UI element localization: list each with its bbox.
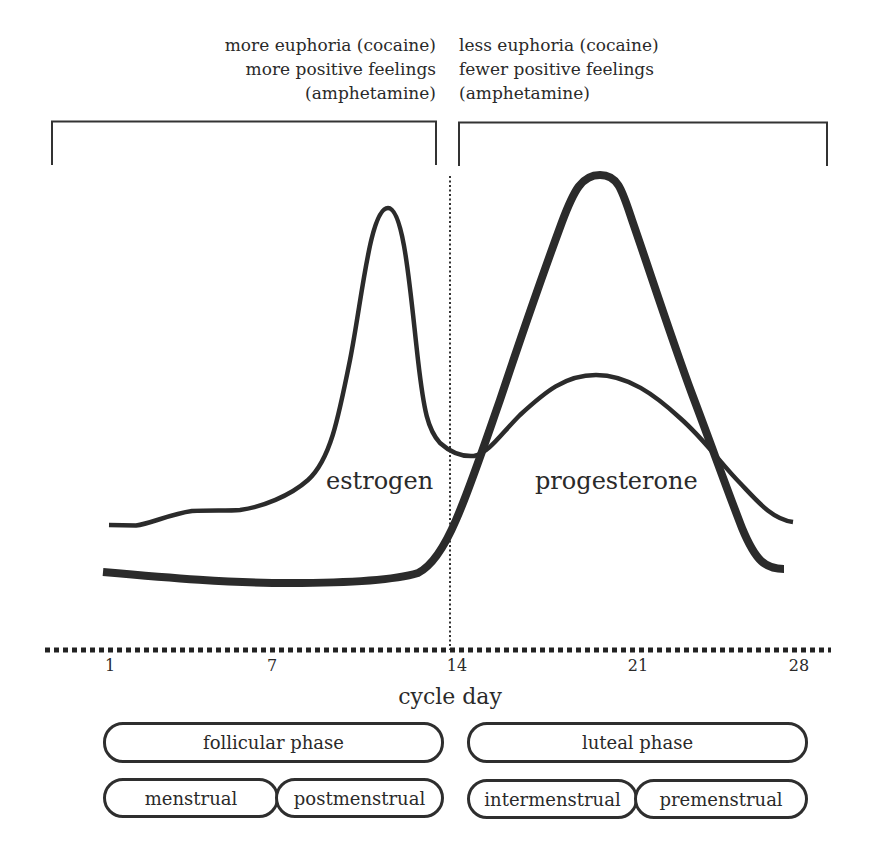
follicular-bracket: [52, 122, 436, 166]
intermenstrual-pill: intermenstrual: [467, 779, 638, 819]
follicular-phase-pill: follicular phase: [103, 722, 444, 763]
progesterone-curve: [103, 175, 784, 583]
follicular-phase-label: follicular phase: [203, 732, 344, 753]
menstrual-label: menstrual: [145, 788, 237, 809]
intermenstrual-label: intermenstrual: [484, 789, 620, 810]
tick-day-28: 28: [779, 656, 819, 675]
luteal-phase-label: luteal phase: [582, 732, 693, 753]
tick-day-1: 1: [90, 656, 130, 675]
premenstrual-pill: premenstrual: [634, 779, 808, 819]
estrogen-label: estrogen: [326, 467, 433, 495]
postmenstrual-pill: postmenstrual: [275, 778, 444, 818]
x-axis-label: cycle day: [350, 684, 550, 709]
postmenstrual-label: postmenstrual: [294, 788, 425, 809]
progesterone-label: progesterone: [535, 467, 698, 495]
luteal-phase-pill: luteal phase: [467, 722, 808, 763]
tick-day-14: 14: [437, 656, 477, 675]
tick-day-7: 7: [252, 656, 292, 675]
luteal-bracket: [459, 123, 827, 167]
premenstrual-label: premenstrual: [659, 789, 782, 810]
tick-day-21: 21: [618, 656, 658, 675]
menstrual-pill: menstrual: [103, 778, 279, 818]
